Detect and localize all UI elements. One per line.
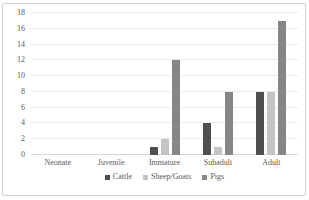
legend-item-sheep-goats: Sheep/Goats — [143, 171, 191, 183]
legend-swatch-pigs — [202, 175, 207, 180]
x-category-label-subadult: Subadult — [191, 157, 244, 168]
y-tick-label-18: 18 — [1, 8, 25, 18]
bar-group-adult — [245, 13, 298, 155]
x-category-label-immature: Immature — [138, 157, 191, 168]
y-tick-label-6: 6 — [1, 103, 25, 113]
y-tick-label-16: 16 — [1, 24, 25, 34]
x-category-label-juvenile: Juvenile — [84, 157, 137, 168]
y-tick-label-14: 14 — [1, 40, 25, 50]
bar-cattle-subadult — [203, 123, 211, 155]
legend-item-pigs: Pigs — [202, 171, 224, 183]
x-category-label-adult: Adult — [245, 157, 298, 168]
bar-groups — [31, 13, 298, 155]
legend-swatch-cattle — [105, 175, 110, 180]
legend-label-pigs: Pigs — [210, 171, 224, 183]
bar-cattle-adult — [256, 92, 264, 155]
x-axis: NeonateJuvenileImmatureSubadultAdult — [31, 157, 298, 168]
y-tick-label-10: 10 — [1, 71, 25, 81]
legend-label-cattle: Cattle — [113, 171, 132, 183]
bar-sheep-goats-immature — [161, 139, 169, 155]
bar-group-neonate — [31, 13, 84, 155]
chart-card: 024681012141618 NeonateJuvenileImmatureS… — [2, 3, 306, 196]
bar-group-juvenile — [84, 13, 137, 155]
y-tick-label-0: 0 — [1, 150, 25, 160]
legend-swatch-sheep-goats — [143, 175, 148, 180]
y-tick-label-2: 2 — [1, 134, 25, 144]
plot-area — [31, 13, 298, 155]
legend-item-cattle: Cattle — [105, 171, 132, 183]
bar-pigs-subadult — [225, 92, 233, 155]
y-axis: 024681012141618 — [3, 13, 27, 155]
y-tick-label-4: 4 — [1, 118, 25, 128]
legend-label-sheep-goats: Sheep/Goats — [151, 171, 191, 183]
bar-group-immature — [138, 13, 191, 155]
y-tick-label-8: 8 — [1, 87, 25, 97]
bar-cattle-immature — [150, 147, 158, 155]
bar-group-subadult — [191, 13, 244, 155]
bar-sheep-goats-subadult — [214, 147, 222, 155]
bar-pigs-adult — [278, 21, 286, 155]
legend: CattleSheep/GoatsPigs — [31, 171, 298, 183]
bar-pigs-immature — [172, 60, 180, 155]
x-category-label-neonate: Neonate — [31, 157, 84, 168]
bar-sheep-goats-adult — [267, 92, 275, 155]
y-tick-label-12: 12 — [1, 55, 25, 65]
